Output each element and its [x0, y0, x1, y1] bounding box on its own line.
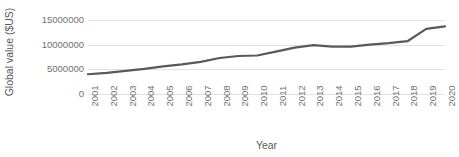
x-axis-tick-labels: 2001200220032004200520062007200820092010…	[88, 96, 445, 136]
x-tick-label: 2013	[313, 76, 327, 116]
x-tick-label: 2005	[163, 76, 177, 116]
x-tick-label: 2020	[445, 76, 459, 116]
x-tick-label: 2012	[295, 76, 309, 116]
y-axis-tick-labels: 050000001000000015000000	[18, 14, 88, 100]
y-axis-title-text: Global value ($US)	[3, 8, 15, 97]
x-tick-label: 2015	[351, 76, 365, 116]
x-tick-label: 2010	[257, 76, 271, 116]
x-tick-label: 2009	[238, 76, 252, 116]
x-tick-label: 2014	[332, 76, 346, 116]
x-tick-label: 2006	[182, 76, 196, 116]
y-tick-label: 0	[18, 89, 84, 99]
x-axis-title: Year	[88, 138, 445, 152]
x-tick-label: 2011	[276, 76, 290, 116]
x-tick-label: 2004	[144, 76, 158, 116]
x-tick-label: 2002	[107, 76, 121, 116]
y-tick-label: 5000000	[18, 64, 84, 74]
series-polyline	[88, 26, 445, 74]
x-tick-label: 2019	[426, 76, 440, 116]
line-chart-figure: Global value ($US) 050000001000000015000…	[0, 0, 459, 157]
y-axis-title: Global value ($US)	[0, 0, 18, 104]
x-tick-label: 2003	[126, 76, 140, 116]
x-tick-label: 2017	[389, 76, 403, 116]
y-tick-label: 15000000	[18, 15, 84, 25]
x-tick-label: 2016	[370, 76, 384, 116]
x-tick-label: 2008	[220, 76, 234, 116]
x-tick-label: 2007	[201, 76, 215, 116]
y-tick-label: 10000000	[18, 40, 84, 50]
x-tick-label: 2001	[88, 76, 102, 116]
x-tick-label: 2018	[407, 76, 421, 116]
